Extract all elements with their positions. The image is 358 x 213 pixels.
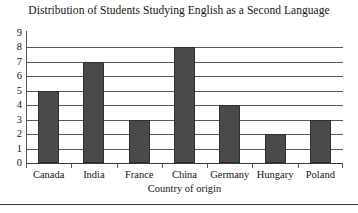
- y-tick-label-9: 9: [0, 28, 22, 38]
- x-tick-label-germany: Germany: [207, 168, 252, 181]
- y-tick-label-4: 4: [0, 100, 22, 110]
- x-tick-label-france: France: [117, 168, 162, 181]
- y-tick-label-5: 5: [0, 86, 22, 96]
- bar-china: [174, 47, 195, 163]
- y-tick-label-3: 3: [0, 115, 22, 125]
- chart-title: Distribution of Students Studying Englis…: [0, 3, 358, 17]
- x-axis-title: Country of origin: [26, 182, 343, 195]
- y-tick-label-2: 2: [0, 129, 22, 139]
- x-axis-tick-labels: CanadaIndiaFranceChinaGermanyHungaryPola…: [26, 168, 343, 182]
- y-tick-label-7: 7: [0, 57, 22, 67]
- x-tick-label-poland: Poland: [298, 168, 343, 181]
- y-tick-label-8: 8: [0, 42, 22, 52]
- x-tick-label-canada: Canada: [26, 168, 71, 181]
- bar-series: [26, 33, 343, 163]
- bar-chart-figure: Distribution of Students Studying Englis…: [0, 0, 358, 213]
- bar-germany: [219, 105, 240, 163]
- plot-area: [26, 33, 343, 163]
- y-tick-label-6: 6: [0, 71, 22, 81]
- bar-poland: [310, 120, 331, 163]
- bar-france: [129, 120, 150, 163]
- bar-canada: [38, 91, 59, 163]
- x-tick-label-hungary: Hungary: [252, 168, 297, 181]
- bottom-divider: [0, 204, 358, 205]
- x-tick-label-india: India: [71, 168, 116, 181]
- x-tick-label-china: China: [162, 168, 207, 181]
- y-axis-tick-labels: 0123456789: [0, 33, 22, 163]
- y-tick-label-1: 1: [0, 144, 22, 154]
- bar-hungary: [265, 134, 286, 163]
- y-tick-label-0: 0: [0, 158, 22, 168]
- bar-india: [83, 62, 104, 163]
